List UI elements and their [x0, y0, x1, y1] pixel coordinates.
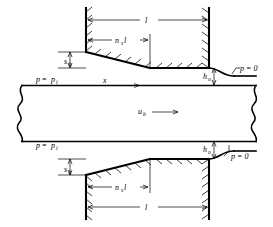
- top-taper-hatching: [95, 49, 151, 67]
- top-film-thickness-dimension: h o: [203, 68, 216, 85]
- flow-channel: u b: [17, 86, 256, 142]
- bottom-length-label: l: [145, 203, 148, 212]
- bottom-taper-label-tail: l: [124, 183, 127, 192]
- bottom-taper-label-sub: s: [121, 187, 123, 193]
- bottom-length-dimension: l: [88, 203, 207, 212]
- bottom-exit-pressure-annotation: p = 0: [209, 145, 256, 161]
- bottom-film-label-sub: o: [208, 149, 211, 155]
- bottom-bearing-assembly: [86, 159, 209, 220]
- top-inlet-p-symbol: p: [35, 75, 40, 84]
- top-taper-label-tail: l: [124, 36, 127, 45]
- top-film-label-sub: o: [208, 76, 211, 82]
- bottom-step-dimension: s h: [58, 159, 86, 175]
- channel-right-break-line: [251, 86, 256, 142]
- top-film-label: h: [203, 72, 207, 81]
- bottom-taper-surface: [86, 159, 150, 175]
- top-bearing-assembly: [86, 7, 209, 68]
- bottom-inlet-p-symbol: p: [35, 141, 40, 150]
- bottom-taper-dimension: n s l: [88, 159, 150, 193]
- top-inlet-pressure-annotation: p = p i: [35, 75, 58, 85]
- bottom-step-label-sub: h: [69, 169, 72, 175]
- top-exit-pressure-annotation: p = 0: [209, 64, 257, 76]
- belt-velocity-label: u: [138, 107, 142, 116]
- top-taper-label-base: n: [115, 36, 119, 45]
- bearing-geometry-figure: l n s l s h p = p i x h o: [0, 0, 273, 227]
- top-taper-surface: [86, 52, 150, 68]
- bottom-inlet-pi-symbol: p: [50, 141, 55, 150]
- top-inlet-pi-symbol: p: [50, 75, 55, 84]
- top-exit-leader: [232, 68, 240, 74]
- bottom-taper-label-base: n: [115, 183, 119, 192]
- top-exit-pressure-label: p = 0: [239, 64, 257, 73]
- top-taper-label-sub: s: [121, 40, 123, 46]
- bottom-inlet-pi-sub: i: [56, 145, 58, 151]
- top-inlet-pi-sub: i: [56, 79, 58, 85]
- bottom-inlet-pressure-annotation: p = p i: [35, 141, 58, 151]
- channel-left-break-line: [17, 86, 22, 142]
- top-taper-dimension: n s l: [88, 34, 150, 68]
- bottom-exit-leader: [224, 145, 229, 156]
- belt-velocity-indicator: u b: [138, 107, 178, 117]
- bottom-exit-pressure-label: p = 0: [230, 152, 248, 161]
- bottom-taper-hatching: [95, 160, 151, 178]
- bottom-inlet-equals: =: [42, 141, 47, 150]
- top-step-dimension: s h: [58, 52, 86, 68]
- bottom-film-label: h: [203, 145, 207, 154]
- top-length-dimension: l: [88, 16, 207, 25]
- top-inlet-equals: =: [42, 75, 47, 84]
- belt-velocity-label-sub: b: [143, 111, 146, 117]
- bottom-film-thickness-dimension: h o: [203, 142, 216, 160]
- top-step-label-sub: h: [69, 61, 72, 67]
- top-length-label: l: [145, 16, 148, 25]
- x-axis-label: x: [102, 76, 107, 85]
- bottom-step-label: s: [64, 165, 67, 174]
- top-step-label: s: [64, 57, 67, 66]
